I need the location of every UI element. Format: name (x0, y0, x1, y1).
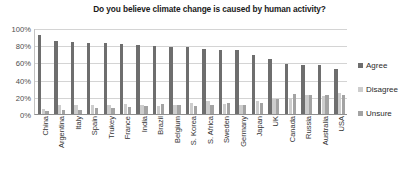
x-axis-label: Germany (243, 85, 252, 116)
legend-label: Agree (366, 61, 387, 70)
x-axis-label: UK (275, 106, 284, 116)
bar-agree (120, 44, 123, 114)
bar-agree (235, 50, 238, 114)
x-axis-label: France (127, 93, 136, 116)
x-axis-label: Italy (78, 102, 87, 116)
x-axis-label: Canada (292, 90, 301, 116)
legend-swatch-icon (358, 111, 363, 116)
x-axis-label: Australia (325, 87, 334, 116)
y-axis-tick: 80% (0, 42, 31, 51)
legend-label: Disagree (366, 85, 398, 94)
bar-agree (219, 50, 222, 115)
y-axis: 100%80%60%40%20%0% (0, 29, 31, 115)
bar-agree (318, 65, 321, 114)
bar-agree (71, 42, 74, 114)
x-axis-label: Argentina (61, 84, 70, 116)
bar-agree (153, 46, 156, 114)
bar-agree (202, 49, 205, 114)
y-axis-tick: 20% (0, 93, 31, 102)
legend-swatch-icon (358, 63, 363, 68)
legend-item-agree[interactable]: Agree (358, 53, 419, 77)
y-axis-tick: 0% (0, 111, 31, 120)
legend-item-disagree[interactable]: Disagree (358, 77, 419, 101)
bar-agree (285, 64, 288, 114)
bar-agree (169, 47, 172, 114)
x-axis-label: S. Africa (210, 88, 219, 116)
bar-agree (38, 35, 41, 114)
legend-item-unsure[interactable]: Unsure (358, 101, 419, 125)
bar-group (266, 29, 282, 114)
bar-agree (87, 43, 90, 114)
x-axis-label: Spain (94, 97, 103, 116)
chart-title: Do you believe climate change is caused … (0, 4, 419, 14)
chart-legend: AgreeDisagreeUnsure (358, 53, 419, 125)
x-axis-label: S. Korea (193, 87, 202, 116)
x-axis-label: Sweden (226, 89, 235, 116)
bar-agree (252, 55, 255, 114)
x-axis-label: Japan (259, 96, 268, 116)
bar-agree (136, 45, 139, 114)
x-axis-label: Belgium (177, 89, 186, 116)
y-axis-tick: 40% (0, 76, 31, 85)
x-axis-label: China (45, 96, 54, 116)
x-axis-labels: ChinaArgentinaItalySpainTrukeyFranceIndi… (34, 116, 347, 172)
x-axis-label: USA (341, 101, 350, 116)
x-axis-label: India (144, 100, 153, 116)
legend-label: Unsure (366, 109, 392, 118)
bar-agree (104, 43, 107, 114)
x-axis-label: Trukey (111, 93, 120, 116)
bar-agree (186, 47, 189, 114)
legend-swatch-icon (358, 87, 363, 92)
y-axis-tick: 100% (0, 25, 31, 34)
y-axis-tick: 60% (0, 59, 31, 68)
bar-agree (268, 59, 271, 114)
x-axis-label: Russia (308, 93, 317, 116)
bar-agree (301, 65, 304, 114)
bar-agree (334, 69, 337, 114)
x-axis-label: Brazil (160, 97, 169, 116)
bar-agree (54, 41, 57, 114)
bar-chart: Do you believe climate change is caused … (0, 0, 419, 173)
